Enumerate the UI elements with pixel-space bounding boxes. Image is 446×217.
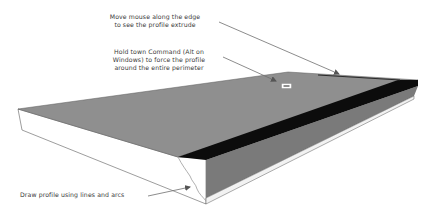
annotation-extrude-line-2: to see the profile extrude <box>96 21 214 29</box>
annotation-extrude-line-1: Move mouse along the edge <box>96 13 214 21</box>
annotation-profile: Draw profile using lines and arcs <box>20 191 124 199</box>
annotation-command-line-3: around the entire perimeter <box>99 64 219 72</box>
follow-me-cursor-icon <box>282 84 291 88</box>
annotation-command-line-1: Hold town Command (Alt on <box>99 48 219 56</box>
annotation-profile-line-1: Draw profile using lines and arcs <box>20 191 124 199</box>
annotation-extrude: Move mouse along the edge to see the pro… <box>96 13 214 29</box>
diagram-canvas <box>0 0 446 217</box>
annotation-command-line-2: Windows) to force the profile <box>99 56 219 64</box>
annotation-command: Hold town Command (Alt on Windows) to fo… <box>99 48 219 72</box>
leader-extrude <box>219 22 339 74</box>
